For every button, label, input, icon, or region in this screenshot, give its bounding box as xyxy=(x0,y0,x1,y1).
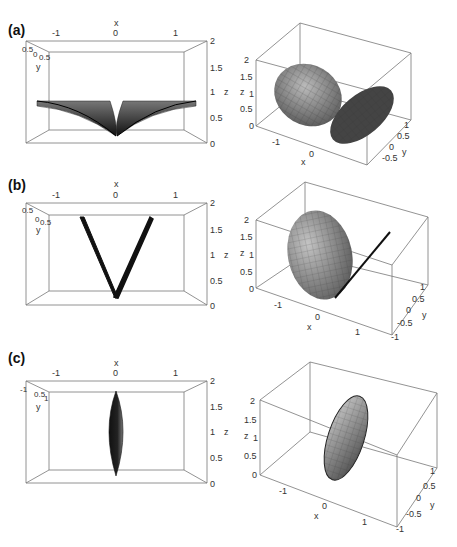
axis-label: x xyxy=(114,358,119,368)
axis-label: 1 xyxy=(253,433,258,443)
axis-label: -1 xyxy=(279,486,287,496)
axis-label: 0 xyxy=(416,493,421,503)
axis-label: 0.5 xyxy=(412,294,425,304)
axis-label: 1 xyxy=(44,394,49,403)
axis-label: y xyxy=(36,225,41,235)
axis-label: 2 xyxy=(244,215,249,225)
axis-label: -1 xyxy=(52,28,60,38)
plot-b-front: x -1 0 1 2 1.5 1 0.5 0 z 0.5 0 0.5 y xyxy=(0,170,230,320)
axis-label: 1 xyxy=(173,28,178,38)
axis-label: y xyxy=(402,147,407,157)
axis-label: 1 xyxy=(210,87,215,97)
axis-label: -1 xyxy=(391,332,399,342)
axis-label: 0 xyxy=(406,305,411,315)
axis-label: x xyxy=(114,18,119,28)
axis-label: 0 xyxy=(252,470,257,480)
axis-label: z xyxy=(224,427,229,437)
axis-label: 1 xyxy=(420,282,425,292)
axis-label: 0 xyxy=(33,50,38,59)
axis-label: 0.5 xyxy=(210,113,223,123)
axis-label: x xyxy=(307,322,312,332)
axis-label: -0.5 xyxy=(382,153,398,163)
axis-label: -1 xyxy=(52,190,60,200)
axis-label: 0.5 xyxy=(22,45,34,54)
axis-label: 0 xyxy=(113,368,118,378)
axis-label: x xyxy=(114,179,119,189)
axis-label: 1.5 xyxy=(240,232,253,242)
axis-label: 1 xyxy=(173,190,178,200)
axis-label: z xyxy=(224,250,229,260)
axis-label: 0.5 xyxy=(39,53,51,62)
plot-a-front: x -1 0 1 2 1.5 1 0.5 0 z 0.5 0 0.5 y xyxy=(0,0,230,170)
axis-label: -1 xyxy=(274,300,282,310)
axis-label: 0 xyxy=(210,139,215,149)
plot-c-perspective: 2 1.5 z 1 0.5 0 -1 0 1 x 1 0.5 0 -0.5 -1… xyxy=(230,360,457,547)
axis-label: 1 xyxy=(210,250,215,260)
axis-label: x xyxy=(301,157,306,167)
axis-label: 1 xyxy=(362,517,367,527)
axis-label: z xyxy=(240,87,245,97)
axis-label: y xyxy=(422,310,427,320)
axis-label: 2 xyxy=(210,198,215,208)
axis-label: 1.5 xyxy=(210,225,223,235)
axis-label: 1 xyxy=(249,89,254,99)
axis-label: 0 xyxy=(113,190,118,200)
axis-label: 1 xyxy=(430,466,435,476)
axis-label: 0.5 xyxy=(210,453,223,463)
axis-label: 0.5 xyxy=(210,276,223,286)
axis-label: z xyxy=(224,87,229,97)
axis-label: 0.5 xyxy=(244,451,257,461)
axis-label: 0 xyxy=(389,142,394,152)
v-arm-right xyxy=(114,217,153,298)
axis-label: -0.5 xyxy=(397,318,413,328)
axis-label: 0.5 xyxy=(240,267,253,277)
axis-label: 0 xyxy=(249,121,254,131)
axis-label: 0 xyxy=(249,284,254,294)
axis-label: 2 xyxy=(210,376,215,386)
axis-label: -1 xyxy=(20,385,28,394)
axis-label: 0 xyxy=(113,28,118,38)
plot-b-perspective: 2 1.5 z 1 0.5 0 -1 0 1 x 1 0.5 0 -0.5 -1… xyxy=(230,170,457,345)
axis-label: 0.5 xyxy=(40,218,52,227)
axis-label: y xyxy=(36,402,41,412)
spindle xyxy=(109,391,123,476)
axis-label: 1.5 xyxy=(244,415,257,425)
axis-label: 1 xyxy=(355,327,360,337)
axis-label: z xyxy=(244,431,249,441)
axis-label: y xyxy=(36,62,41,72)
axis-label: 0.5 xyxy=(22,206,34,215)
axis-label: 2 xyxy=(210,36,215,46)
axis-label: 2 xyxy=(244,55,249,65)
axis-label: -1 xyxy=(272,137,280,147)
axis-label: 0.5 xyxy=(397,131,410,141)
axis-label: 1 xyxy=(173,368,178,378)
axis-label: 0 xyxy=(309,149,314,159)
axis-label: 0 xyxy=(210,479,215,489)
axis-label: 0 xyxy=(315,312,320,322)
axis-label: -1 xyxy=(52,368,60,378)
plot-a-perspective: 2 1.5 z 1 0.5 0 -1 0 x 1 0.5 0 -0.5 y xyxy=(230,0,457,175)
axis-label: 2 xyxy=(250,396,255,406)
v-arm-left xyxy=(80,217,118,298)
axis-label: 1.5 xyxy=(210,63,223,73)
axis-label: 1.5 xyxy=(240,72,253,82)
axis-label: 1.5 xyxy=(210,402,223,412)
axis-label: 0 xyxy=(210,301,215,311)
axis-label: 0.5 xyxy=(240,104,253,114)
axis-label: x xyxy=(314,511,319,521)
axis-label: -1 xyxy=(396,524,404,534)
axis-label: z xyxy=(240,248,245,258)
axis-label: 1 xyxy=(249,250,254,260)
axis-label: 1 xyxy=(210,427,215,437)
axis-label: 0 xyxy=(322,501,327,511)
plot-c-front: x -1 0 1 2 1.5 1 0.5 0 z -1 0.5 1 y xyxy=(0,340,230,520)
axis-label: -0.5 xyxy=(406,509,422,519)
axis-label: y xyxy=(430,500,435,510)
axis-label: 1 xyxy=(404,120,409,130)
axis-label: 0.5 xyxy=(423,481,436,491)
